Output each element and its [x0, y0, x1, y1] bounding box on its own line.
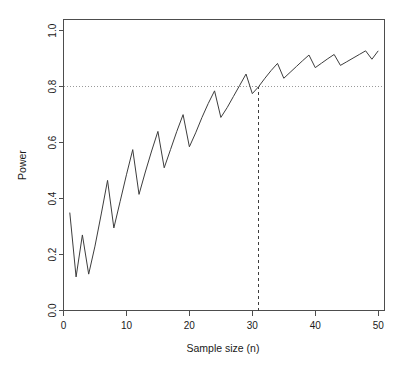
y-tick-label: 1.0 — [47, 23, 58, 37]
x-axis-title: Sample size (n) — [187, 342, 260, 354]
x-tick-label: 50 — [373, 320, 385, 331]
power-curve-plot: 01020304050 0.00.20.40.60.81.0 Sample si… — [0, 0, 402, 368]
x-tick-label: 10 — [121, 320, 133, 331]
y-tick-label: 0.2 — [47, 247, 58, 261]
y-axis-title: Power — [16, 150, 28, 180]
plot-canvas: 01020304050 0.00.20.40.60.81.0 Sample si… — [0, 0, 402, 368]
x-tick-label: 40 — [310, 320, 322, 331]
y-tick-label: 0.6 — [47, 135, 58, 149]
x-tick-label: 20 — [184, 320, 196, 331]
x-tick-label: 30 — [247, 320, 259, 331]
y-tick-label: 0.8 — [47, 79, 58, 93]
y-tick-label: 0.0 — [47, 303, 58, 317]
plot-background — [0, 0, 402, 368]
y-tick-label: 0.4 — [47, 191, 58, 205]
x-tick-label: 0 — [61, 320, 67, 331]
